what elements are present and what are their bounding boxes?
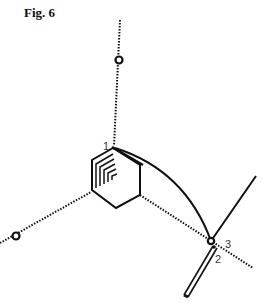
dotted-axis-vertical (114, 20, 120, 146)
label-point-3: 3 (225, 238, 231, 250)
diagram-figure: Fig. 6 1 3 2 (0, 0, 262, 303)
label-point-2: 2 (215, 253, 221, 265)
label-point-1: 1 (103, 140, 109, 152)
marker-circle-point3 (208, 238, 214, 244)
marker-circle-top (116, 57, 123, 64)
hexagon-ring (92, 148, 140, 208)
hatch-lines (96, 154, 117, 188)
rod (184, 246, 217, 297)
bond-line-1 (112, 147, 143, 165)
figure-title: Fig. 6 (24, 5, 56, 20)
marker-dot-point2 (212, 245, 216, 249)
marker-circle-left (13, 233, 20, 240)
straight-line-upper (211, 176, 256, 241)
curved-arc (115, 148, 211, 241)
